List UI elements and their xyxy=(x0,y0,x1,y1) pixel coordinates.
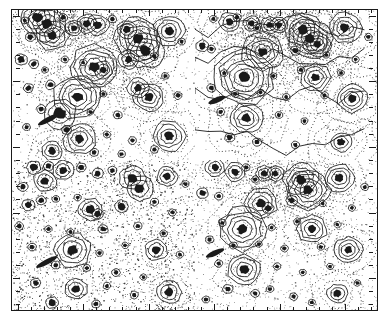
panel-bottom-left xyxy=(12,160,195,310)
source-core xyxy=(17,56,25,63)
source-core xyxy=(72,93,84,102)
source-core xyxy=(180,40,184,44)
source-core xyxy=(302,119,306,123)
source-core xyxy=(163,173,171,181)
source-core xyxy=(38,107,44,112)
source-core xyxy=(132,293,136,297)
source-core xyxy=(86,205,95,214)
source-core xyxy=(152,147,157,151)
panel-contour-map xyxy=(195,10,378,160)
source-core xyxy=(307,225,315,233)
source-core xyxy=(63,58,67,62)
source-core xyxy=(118,203,126,211)
source-core xyxy=(300,271,304,275)
panel-contour-map xyxy=(195,160,378,310)
source-core xyxy=(254,140,259,145)
source-core xyxy=(275,22,282,28)
source-core xyxy=(178,253,182,257)
source-core xyxy=(85,266,89,270)
source-core xyxy=(344,246,352,254)
source-core xyxy=(226,135,232,141)
source-core xyxy=(25,85,31,91)
source-core xyxy=(216,194,221,198)
figure-root xyxy=(0,0,390,329)
source-core xyxy=(293,143,297,148)
source-core xyxy=(198,43,205,50)
streak-source xyxy=(204,247,225,260)
source-core xyxy=(101,226,107,231)
source-core xyxy=(233,92,237,96)
source-core xyxy=(110,17,115,22)
source-core xyxy=(327,265,331,269)
source-core xyxy=(30,245,35,249)
source-core xyxy=(67,245,77,255)
source-core xyxy=(71,285,80,292)
source-core xyxy=(31,61,37,67)
source-core xyxy=(348,95,356,103)
source-core xyxy=(161,231,165,235)
source-core xyxy=(274,265,279,269)
source-core xyxy=(123,244,128,248)
source-core xyxy=(38,198,44,204)
dotted-contour xyxy=(310,269,363,310)
panel-grid xyxy=(12,10,377,310)
source-core xyxy=(48,147,56,155)
source-core xyxy=(25,202,32,209)
source-core xyxy=(93,301,98,306)
source-core xyxy=(30,164,38,172)
source-core xyxy=(238,72,249,82)
source-core xyxy=(209,47,214,52)
noise-speckle xyxy=(195,160,377,310)
source-core xyxy=(95,171,101,177)
source-core xyxy=(75,134,84,144)
source-core xyxy=(336,138,345,146)
panel-top-right xyxy=(195,10,378,160)
source-core xyxy=(225,287,231,292)
source-core xyxy=(291,294,295,299)
source-core xyxy=(46,163,52,168)
source-core xyxy=(164,287,173,296)
source-core xyxy=(142,275,146,279)
source-core xyxy=(211,17,215,21)
source-core xyxy=(60,167,68,174)
source-core xyxy=(164,27,174,36)
dotted-contour xyxy=(245,160,287,195)
source-core xyxy=(303,185,314,194)
source-core xyxy=(53,197,58,201)
source-core xyxy=(318,245,322,249)
source-core xyxy=(25,125,29,129)
source-core xyxy=(47,227,51,231)
source-core xyxy=(53,263,58,267)
source-core xyxy=(218,110,223,114)
panel-contour-map xyxy=(12,160,195,310)
source-core xyxy=(203,298,208,302)
source-core xyxy=(208,86,213,91)
source-core xyxy=(239,265,249,274)
source-core xyxy=(183,182,188,186)
dotted-contour xyxy=(12,10,84,53)
source-core xyxy=(115,113,120,118)
source-core xyxy=(264,205,271,212)
source-core xyxy=(110,168,115,173)
source-core xyxy=(365,35,370,39)
source-core xyxy=(78,165,84,170)
source-core xyxy=(333,290,341,298)
source-core xyxy=(211,164,218,171)
source-core xyxy=(49,299,56,307)
source-core xyxy=(320,201,324,205)
source-core xyxy=(355,281,359,285)
source-core xyxy=(145,93,154,101)
plot-frame xyxy=(11,9,378,311)
source-core xyxy=(119,152,123,156)
source-core xyxy=(175,93,180,98)
source-core xyxy=(353,58,357,62)
source-core xyxy=(282,246,286,250)
source-core xyxy=(269,226,273,230)
source-core xyxy=(334,174,342,182)
source-core xyxy=(216,262,220,266)
source-core xyxy=(33,280,39,286)
source-core xyxy=(255,199,265,208)
source-core xyxy=(335,223,339,227)
source-core xyxy=(152,246,161,254)
source-core xyxy=(267,287,271,291)
